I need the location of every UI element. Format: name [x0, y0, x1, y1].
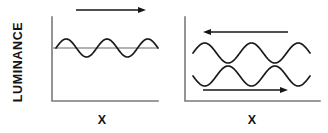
x-axis-label-right: X — [248, 113, 257, 127]
arrow-right-icon — [138, 7, 146, 13]
right-panel-waves — [193, 43, 310, 86]
dual-grating-panel: X — [185, 17, 320, 127]
left-panel-motion-arrows — [76, 7, 146, 13]
figure-root: X X LUMINANCE — [0, 0, 328, 133]
lower-luminance-wave — [193, 66, 310, 86]
upper-luminance-wave — [193, 43, 310, 63]
x-axis-label-left: X — [98, 113, 107, 127]
single-grating-panel: X — [52, 7, 158, 127]
figure-canvas: X X LUMINANCE — [0, 0, 328, 133]
arrow-left-icon — [203, 29, 211, 35]
arrow-right-icon — [280, 87, 288, 93]
left-panel-axes — [52, 17, 158, 101]
y-axis-label: LUMINANCE — [11, 22, 25, 102]
right-panel-axes — [185, 17, 320, 101]
